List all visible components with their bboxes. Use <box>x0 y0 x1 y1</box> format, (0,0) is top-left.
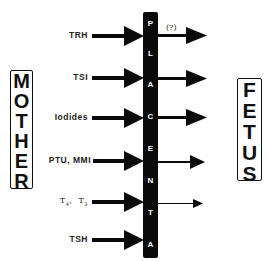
label-tsh: TSH <box>70 234 89 244</box>
placenta-letter: A <box>143 240 158 249</box>
arrow-right-iodides-icon <box>157 109 207 126</box>
placenta-letter: N <box>143 176 158 185</box>
placenta-letter: C <box>143 112 158 121</box>
label-iodides: Iodides <box>55 112 88 122</box>
arrow-left-t4t3-icon <box>92 192 144 212</box>
placenta-bar: P L A C E N T A <box>143 12 158 258</box>
arrow-right-trh-icon <box>157 27 207 44</box>
label-tsi: TSI <box>73 72 88 82</box>
label-t4-t3: T4, T3 <box>60 196 88 207</box>
label-trh: TRH <box>69 30 88 40</box>
placenta-letter: E <box>143 144 158 153</box>
arrow-left-ptu-icon <box>93 151 144 171</box>
uncertain-annotation: (?) <box>166 23 177 32</box>
arrow-right-tsi-icon <box>157 70 207 87</box>
arrows-layer <box>0 0 269 261</box>
arrow-right-ptu-icon <box>157 155 205 169</box>
arrow-left-tsi-icon <box>92 68 144 88</box>
arrow-left-trh-icon <box>92 26 144 46</box>
placenta-letter: A <box>143 80 158 89</box>
t3-sub: 3 <box>84 201 88 207</box>
placenta-letter: L <box>143 49 158 58</box>
placenta-letter: T <box>143 208 158 217</box>
placenta-letter: P <box>143 19 158 28</box>
arrow-left-iodides-icon <box>92 108 144 128</box>
label-ptu-mmi: PTU, MMI <box>49 155 91 165</box>
arrow-right-t4t3-icon <box>157 199 203 208</box>
arrow-left-tsh-icon <box>92 230 144 250</box>
